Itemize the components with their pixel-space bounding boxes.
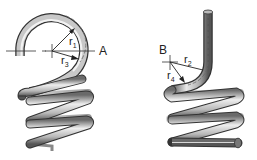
wire-end-section bbox=[235, 138, 242, 148]
spring-diagram: r1 r3 A B r2 r4 bbox=[0, 0, 257, 160]
label-point-a: A bbox=[99, 45, 107, 57]
label-r4: r4 bbox=[167, 70, 175, 83]
label-r3: r3 bbox=[61, 55, 69, 68]
label-r2: r2 bbox=[184, 54, 192, 67]
left-spring bbox=[6, 16, 95, 151]
spring-drawing bbox=[0, 0, 257, 160]
label-point-b: B bbox=[159, 44, 167, 56]
label-r1: r1 bbox=[69, 36, 77, 49]
